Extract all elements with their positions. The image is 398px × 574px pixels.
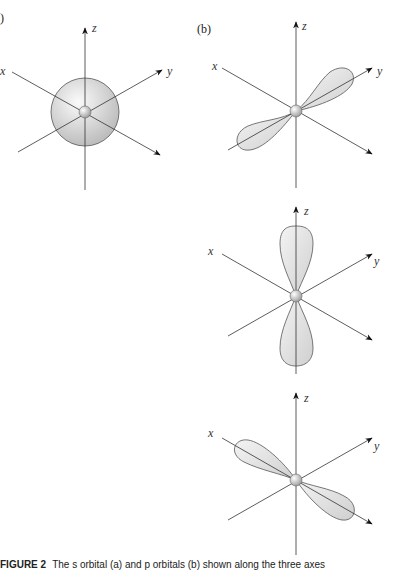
py-lobe-positive xyxy=(296,68,353,111)
py-lobe-negative xyxy=(237,111,296,150)
y-axis-label: y xyxy=(373,254,380,268)
panel-a-s-orbital: ) z x y xyxy=(0,11,173,190)
panel-label-a: ) xyxy=(0,11,4,25)
panel-b-pz-orbital: z x y xyxy=(207,204,380,374)
orbital-figure: ) z x y (b) z x y z x y xyxy=(0,0,398,574)
panel-b-py-orbital: (b) z x y xyxy=(197,19,383,188)
z-axis-label: z xyxy=(301,19,307,33)
y-axis-label: y xyxy=(376,64,383,78)
panel-label-b: (b) xyxy=(197,22,211,36)
y-axis-label: y xyxy=(166,64,173,78)
y-axis-label: y xyxy=(373,439,380,453)
x-axis-label: x xyxy=(211,59,218,73)
z-axis-label: z xyxy=(303,391,309,405)
pz-lobe-negative xyxy=(280,296,313,366)
nucleus xyxy=(290,105,302,117)
nucleus xyxy=(79,106,91,118)
x-axis-label: x xyxy=(0,64,6,78)
nucleus xyxy=(290,290,302,302)
figure-caption-text: The s orbital (a) and p orbitals (b) sho… xyxy=(52,559,325,570)
figure-caption: FIGURE 2The s orbital (a) and p orbitals… xyxy=(0,559,398,574)
x-axis-label: x xyxy=(207,244,214,258)
z-axis-label: z xyxy=(91,21,97,35)
panel-b-px-orbital: z x y xyxy=(207,391,380,555)
x-axis-label: x xyxy=(207,426,214,440)
z-axis-label: z xyxy=(303,204,309,218)
px-lobe-positive xyxy=(234,440,296,480)
pz-lobe-positive xyxy=(280,226,313,296)
px-lobe-negative xyxy=(296,480,354,520)
figure-caption-label: FIGURE 2 xyxy=(0,559,46,570)
nucleus xyxy=(290,474,302,486)
